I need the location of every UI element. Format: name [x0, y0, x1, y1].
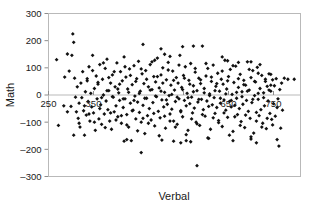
x-tick-label: 750: [266, 98, 282, 109]
y-tick-label: –300: [20, 171, 41, 182]
x-tick-label: 250: [41, 98, 57, 109]
chart-canvas: –300–200–1000100200300 250350650750 Verb…: [0, 0, 314, 208]
x-tick-label: 650: [221, 98, 237, 109]
y-tick-label: –200: [20, 144, 41, 155]
y-tick-label: 200: [26, 35, 42, 46]
x-tick-label: 350: [86, 98, 102, 109]
y-tick-label: 300: [26, 8, 42, 19]
y-tick-label: –100: [20, 117, 41, 128]
y-tick-label: 100: [26, 62, 42, 73]
y-axis-title: Math: [4, 83, 16, 107]
x-axis-title: Verbal: [158, 190, 189, 202]
scatter-plot-figure: –300–200–1000100200300 250350650750 Verb…: [0, 0, 314, 208]
